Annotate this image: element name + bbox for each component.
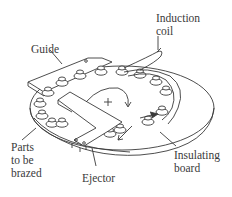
label-parts-3: brazed bbox=[11, 167, 42, 179]
label-insulating-1: Insulating bbox=[174, 149, 220, 161]
label-parts-1: Parts bbox=[11, 141, 34, 153]
label-parts-2: to be bbox=[11, 154, 34, 166]
label-induction-coil-1: Induction bbox=[156, 12, 200, 24]
label-ejector: Ejector bbox=[82, 172, 115, 184]
label-insulating-2: board bbox=[174, 162, 200, 174]
label-induction-coil-2: coil bbox=[156, 25, 173, 37]
label-guide: Guide bbox=[31, 43, 59, 55]
